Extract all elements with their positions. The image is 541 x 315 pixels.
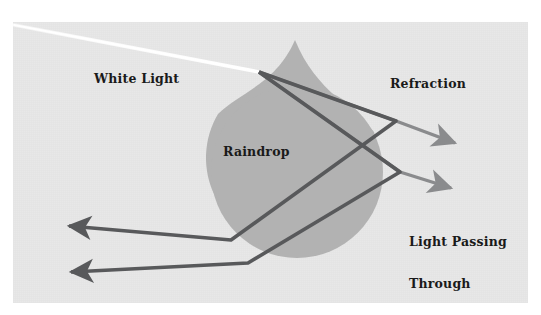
- label-white-light: White Light: [94, 72, 179, 86]
- white-light-beam: [14, 25, 259, 72]
- label-raindrop: Raindrop: [223, 145, 290, 159]
- diagram-figure: White Light Raindrop Refraction Light Pa…: [0, 0, 541, 315]
- label-light-passing-through: Light Passing Through: [409, 207, 507, 315]
- label-refraction: Refraction: [390, 77, 466, 91]
- label-light-passing-through-line1: Light Passing: [409, 235, 507, 249]
- label-light-passing-through-line2: Through: [409, 277, 507, 291]
